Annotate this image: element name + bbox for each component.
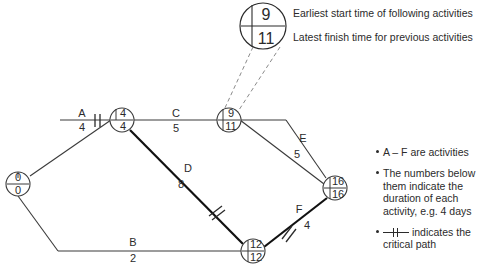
legend-item-activities-text: A – F are activities: [383, 146, 469, 158]
activity-duration-b: 2: [130, 252, 136, 264]
legend-panel: A – F are activities The numbers below t…: [376, 146, 478, 260]
callout-description-early: Earliest start time of following activit…: [293, 7, 473, 19]
callout-node-early: 9: [262, 6, 271, 23]
edge-activity-a: [30, 120, 111, 176]
callout-group: 9 11 Earliest start time of following ac…: [240, 3, 473, 49]
callout-description-late: Latest finish time for previous activiti…: [293, 31, 473, 43]
node-end-late: 16: [332, 188, 344, 200]
edges-group: [18, 47, 327, 251]
edge-activity-e: [240, 120, 324, 184]
node-n3[interactable]: 9 11: [217, 107, 241, 132]
node-n2-early: 4: [120, 107, 126, 119]
callout-node-late: 11: [258, 30, 275, 47]
activity-duration-c: 5: [173, 122, 179, 134]
legend-item-duration: The numbers below them indicate the dura…: [376, 167, 478, 217]
node-end[interactable]: 16 16: [323, 175, 347, 200]
bullet-dot-icon: [376, 230, 379, 233]
activity-duration-d: 8: [178, 178, 184, 190]
callout-leader-left: [224, 47, 253, 110]
edge-activity-d: [130, 130, 243, 244]
bullet-dot-icon: [376, 150, 379, 153]
node-n4-late: 12: [250, 251, 262, 263]
node-n4-early: 12: [250, 238, 262, 250]
activity-label-e: E: [299, 132, 306, 144]
node-start[interactable]: 0 0: [6, 171, 30, 196]
legend-item-activities: A – F are activities: [376, 146, 478, 158]
critical-path-mark-icon: [383, 228, 409, 237]
activity-duration-f: 4: [304, 219, 310, 231]
activity-label-b: B: [129, 236, 136, 248]
activity-duration-a: 4: [79, 121, 85, 133]
activity-labels-group: A 4 B 2 C 5 D 8 E 5 F 4: [78, 107, 310, 264]
node-n3-late: 11: [225, 120, 236, 132]
activity-label-a: A: [78, 107, 86, 119]
edge-activity-b-down: [18, 196, 58, 251]
node-start-early: 0: [15, 171, 21, 183]
activity-label-f: F: [296, 203, 303, 215]
node-start-late: 0: [15, 184, 21, 196]
node-n2[interactable]: 4 4: [110, 107, 134, 132]
node-n2-late: 4: [120, 120, 126, 132]
legend-item-duration-text: The numbers below them indicate the dura…: [383, 167, 475, 216]
critical-path-marks-group: [95, 114, 296, 242]
activity-label-d: D: [184, 162, 192, 174]
node-n3-early: 9: [228, 107, 234, 119]
activity-label-c: C: [172, 107, 180, 119]
bullet-dot-icon: [376, 171, 379, 174]
node-n4[interactable]: 12 12: [241, 238, 265, 263]
activity-duration-e: 5: [294, 148, 300, 160]
network-diagram-canvas: A 4 B 2 C 5 D 8 E 5 F 4 0 0: [0, 0, 478, 278]
edge-activity-e-diag: [286, 120, 326, 178]
legend-item-critical-path: indicates the critical path: [376, 226, 478, 251]
node-end-early: 16: [332, 175, 344, 187]
callout-leader-right: [237, 47, 280, 113]
